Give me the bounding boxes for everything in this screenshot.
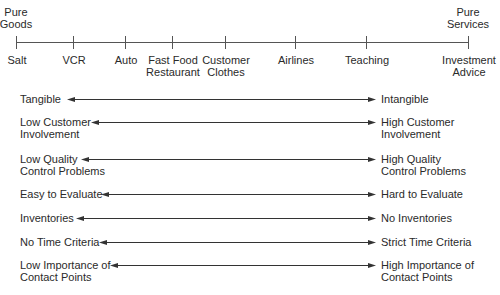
arrow-layer <box>0 0 500 295</box>
double-arrow-icon <box>91 120 376 125</box>
double-arrow-icon <box>76 216 376 221</box>
double-arrow-icon <box>67 97 376 102</box>
double-arrow-icon <box>99 240 376 245</box>
double-arrow-icon <box>81 157 376 162</box>
double-arrow-icon <box>101 192 376 197</box>
double-arrow-icon <box>110 263 376 268</box>
